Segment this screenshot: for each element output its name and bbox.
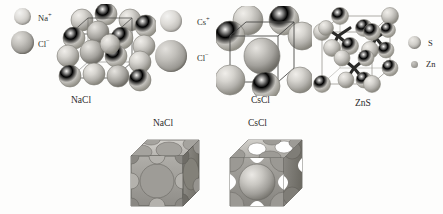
cscl-structure: [216, 6, 312, 96]
cscl-structure-caption: CsCl: [251, 96, 270, 106]
nacl-structure: [52, 4, 156, 96]
legend-sphere-cesium: [160, 10, 182, 32]
zns-structure: [312, 6, 406, 100]
legend-label-sulfur: S: [428, 39, 433, 48]
cscl-packed-cube: [226, 136, 316, 214]
legend-label-sodium: Na+: [38, 12, 52, 22]
legend-sphere-chloride-nacl: [11, 31, 34, 54]
crystal-structure-figure: Na+ Cl−: [0, 0, 443, 214]
nacl-packed-caption: NaCl: [153, 119, 173, 129]
legend-label-chloride-nacl: Cl−: [38, 38, 50, 48]
zns-structure-caption: ZnS: [355, 99, 371, 109]
cscl-packed-caption: CsCl: [248, 119, 267, 129]
legend-sphere-sulfur: [408, 36, 421, 49]
nacl-structure-caption: NaCl: [71, 96, 91, 106]
legend-label-zinc: Zn: [426, 60, 435, 69]
legend-label-cesium: Cs+: [197, 16, 210, 26]
legend-sphere-zinc: [411, 61, 418, 68]
legend-sphere-sodium: [14, 8, 31, 25]
legend-sphere-chloride-cscl: [155, 40, 187, 72]
nacl-packed-cube: [127, 136, 211, 214]
legend-label-chloride-cscl: Cl−: [197, 52, 209, 62]
